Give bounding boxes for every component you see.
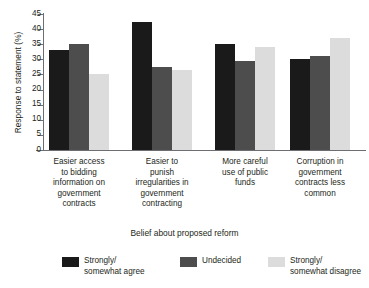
y-axis-tick-label: 45 <box>32 9 41 19</box>
chart-legend: Strongly/ somewhat agreeUndecidedStrongl… <box>0 256 369 286</box>
legend-label: Undecided <box>202 256 241 267</box>
x-axis-category-label: More carefuluse of publicfunds <box>202 157 288 189</box>
x-axis-category-label: Easier topunishirregularities ingovernme… <box>119 157 205 210</box>
y-axis-title: Response to statement (%) <box>14 8 23 158</box>
bar <box>235 61 255 150</box>
bar <box>172 70 192 150</box>
bar-group <box>215 14 275 150</box>
y-axis-tick-label: 35 <box>32 39 41 49</box>
bar <box>215 44 235 150</box>
bar <box>152 67 172 150</box>
bar <box>69 44 89 150</box>
y-axis-tick-label: 25 <box>32 69 41 79</box>
x-axis-line <box>36 150 366 151</box>
bar <box>310 56 330 150</box>
y-axis-tick-label: 0 <box>36 145 41 155</box>
x-axis-category-label: Easier accessto biddinginformation ongov… <box>36 157 122 210</box>
y-axis-tick-label: 5 <box>36 129 41 139</box>
y-axis-tick-label: 30 <box>32 54 41 64</box>
legend-item[interactable]: Strongly/ somewhat disagree <box>268 256 361 277</box>
bar <box>49 50 69 150</box>
bar-group <box>290 14 350 150</box>
y-axis-tick-label: 20 <box>32 84 41 94</box>
legend-item[interactable]: Strongly/ somewhat agree <box>62 256 145 277</box>
plot-area: 051015202530354045 <box>44 14 362 150</box>
bar <box>89 74 109 150</box>
legend-swatch-icon <box>62 257 79 267</box>
bar-group <box>49 14 109 150</box>
legend-item[interactable]: Undecided <box>180 256 241 267</box>
y-axis-tick-label: 40 <box>32 24 41 34</box>
bar <box>255 47 275 150</box>
legend-label: Strongly/ somewhat agree <box>84 256 145 277</box>
bar-chart: Response to statement (%) 05101520253035… <box>0 0 369 288</box>
legend-swatch-icon <box>268 257 285 267</box>
bar <box>132 22 152 150</box>
x-axis-title: Belief about proposed reform <box>0 228 369 238</box>
bar <box>330 38 350 150</box>
y-axis-tick-label: 15 <box>32 99 41 109</box>
bar-group <box>132 14 192 150</box>
x-axis-category-label: Corruption ingovernmentcontracts lesscom… <box>277 157 363 199</box>
bar <box>290 59 310 150</box>
y-axis-tick-label: 10 <box>32 114 41 124</box>
legend-swatch-icon <box>180 257 197 267</box>
legend-label: Strongly/ somewhat disagree <box>290 256 361 277</box>
